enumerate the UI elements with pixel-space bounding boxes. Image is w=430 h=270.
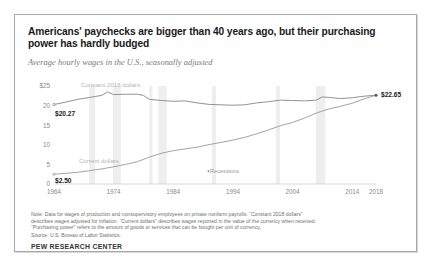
y-tick-label: 20 bbox=[43, 102, 51, 109]
y-tick-label: 5 bbox=[46, 161, 50, 168]
x-tick-label: 1994 bbox=[226, 188, 241, 195]
chart-subtitle: Average hourly wages in the U.S., season… bbox=[28, 58, 404, 67]
y-tick-label: 0 bbox=[46, 180, 50, 187]
value-start-constant: $20.27 bbox=[55, 110, 76, 118]
x-tick-label: 1964 bbox=[47, 188, 62, 195]
series-start-marker bbox=[53, 173, 55, 175]
recession-band bbox=[316, 86, 326, 184]
x-tick-label: 2014 bbox=[345, 188, 360, 195]
x-tick-label: 2018 bbox=[369, 188, 384, 195]
value-start-current: $2.50 bbox=[55, 177, 72, 185]
chart-figure-inner: Americans' paychecks are bigger than 40 … bbox=[15, 15, 416, 251]
chart-figure-frame: Americans' paychecks are bigger than 40 … bbox=[14, 14, 417, 252]
y-axis-ticks: $2520151050 bbox=[39, 82, 50, 187]
label-current-dollars: Current dollars bbox=[79, 157, 119, 164]
recession-band bbox=[89, 86, 95, 184]
chart-footnotes: Note: Data for wages of production and n… bbox=[31, 211, 413, 239]
recession-band bbox=[149, 86, 152, 184]
note-line-3: “Purchasing power” refers to the amount … bbox=[31, 224, 413, 231]
y-tick-label: 10 bbox=[43, 141, 51, 148]
value-end-converged: $22.65 bbox=[381, 91, 402, 99]
source-line: Source: U.S. Bureau of Labor Statistics. bbox=[31, 232, 413, 239]
label-constant-dollars: Constant 2018 dollars bbox=[81, 81, 140, 88]
y-tick-label: 15 bbox=[43, 122, 51, 129]
chart-annotations: Constant 2018 dollarsCurrent dollarsRece… bbox=[55, 81, 402, 185]
series-start-marker bbox=[53, 103, 55, 105]
pew-research-center-brand: PEW RESEARCH CENTER bbox=[31, 243, 122, 250]
x-tick-label: 1974 bbox=[107, 188, 122, 195]
page-title: Americans' paychecks are bigger than 40 … bbox=[28, 26, 404, 51]
line-chart-plot: $2520151050 1964197419841994200420142018… bbox=[28, 78, 406, 200]
series-end-marker bbox=[375, 94, 378, 97]
recession-band bbox=[113, 86, 121, 184]
x-tick-label: 2004 bbox=[286, 188, 301, 195]
chart-svg: $2520151050 1964197419841994200420142018… bbox=[28, 78, 406, 200]
x-axis-ticks: 1964197419841994200420142018 bbox=[47, 188, 384, 195]
y-tick-label: $25 bbox=[39, 82, 50, 89]
x-tick-label: 1984 bbox=[166, 188, 181, 195]
recession-pointer-icon bbox=[207, 169, 209, 172]
label-recessions: Recessions bbox=[210, 168, 239, 174]
